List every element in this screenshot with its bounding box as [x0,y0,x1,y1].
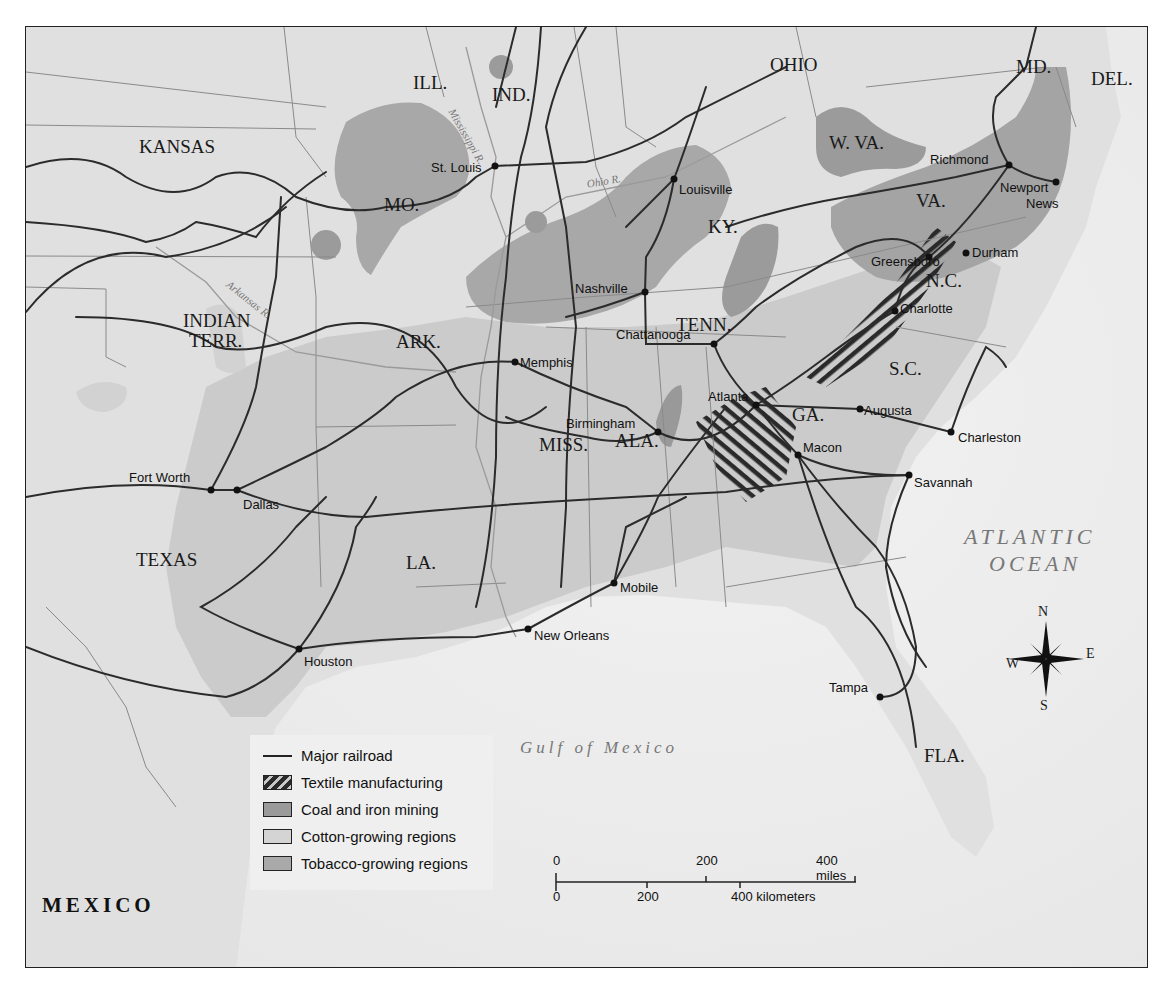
city-marker [1006,162,1013,169]
city-marker [492,163,499,170]
city-label: Chattanooga [616,328,690,341]
cotton-swatch [263,829,292,844]
city-label: Atlanta [708,390,748,403]
legend-item-textile: Textile manufacturing [263,774,443,791]
state-label: IND. [492,85,531,104]
state-label: VA. [916,191,946,210]
state-label: INDIAN [183,311,251,330]
scale-km-200: 200 [637,889,659,904]
city-marker [1053,179,1060,186]
state-label: TERR. [189,331,242,350]
city-label: Macon [803,441,842,454]
state-label: TEXAS [136,550,197,569]
scale-km-400: 400 kilometers [731,889,816,904]
city-marker [948,429,955,436]
city-marker [208,487,215,494]
city-marker [857,406,864,413]
state-label: ILL. [413,73,447,92]
state-label: N.C. [926,271,962,290]
city-marker [611,580,618,587]
city-label: New Orleans [534,629,609,642]
legend-label: Textile manufacturing [301,774,443,791]
water-body-label: ATLANTIC [964,526,1095,548]
city-label: Charlotte [900,302,953,315]
state-label: S.C. [889,359,922,378]
compass-e: E [1086,647,1095,661]
city-marker [753,402,760,409]
legend-item-tobacco: Tobacco-growing regions [263,855,468,872]
state-label: KANSAS [139,137,215,156]
compass-n: N [1038,605,1048,619]
coal-swatch [263,802,292,817]
city-label: Charleston [958,431,1021,444]
city-label: Durham [972,246,1018,259]
state-label: MO. [384,195,419,214]
legend-label: Coal and iron mining [301,801,439,818]
city-marker [877,694,884,701]
state-label: GA. [792,405,824,424]
state-label: FLA. [924,746,965,765]
city-label: St. Louis [431,161,482,174]
tobacco-swatch [263,856,292,871]
city-label: Augusta [864,404,912,417]
city-marker [906,472,913,479]
state-label: ALA. [615,431,659,450]
city-marker [711,341,718,348]
city-label: Nashville [575,282,628,295]
city-label: Mobile [620,581,658,594]
state-label: MISS. [539,435,588,454]
city-marker [296,646,303,653]
city-label: Louisville [679,183,732,196]
country-label: MEXICO [42,895,155,916]
state-label: LA. [406,553,436,572]
coal-region [311,230,341,260]
state-label: W. VA. [829,133,884,152]
city-label: News [1026,197,1059,210]
city-label: Newport [1000,181,1048,194]
city-marker [892,308,899,315]
legend-label: Tobacco-growing regions [301,855,468,872]
legend-label: Cotton-growing regions [301,828,456,845]
map-canvas [26,27,1148,968]
city-label: Tampa [829,681,868,694]
scale-bar: 0 200 400 miles 0 200 400 kilometers [546,853,856,913]
city-marker [512,359,519,366]
city-marker [234,487,241,494]
water-body-label: Gulf of Mexico [520,739,678,756]
state-label: KY. [708,217,738,236]
city-label: Fort Worth [129,471,190,484]
scale-miles-0: 0 [553,853,560,868]
legend-item-coal: Coal and iron mining [263,801,439,818]
compass-w: W [1006,657,1019,671]
city-label: Dallas [243,498,279,511]
state-label: ARK. [396,332,441,351]
state-label: DEL. [1091,69,1133,88]
compass-s: S [1040,699,1048,713]
city-label: Greensboro [871,255,940,268]
railroad-swatch [263,755,292,757]
legend-item-railroad: Major railroad [263,747,393,764]
city-marker [671,176,678,183]
map: ILL.IND.OHIOMD.DEL.KANSASW. VA.MO.KY.VA.… [25,26,1148,968]
city-marker [795,452,802,459]
legend-item-cotton: Cotton-growing regions [263,828,456,845]
legend-label: Major railroad [301,747,393,764]
city-marker [525,626,532,633]
water-body-label: OCEAN [989,553,1081,575]
coal-region [489,55,513,79]
city-label: Houston [304,655,352,668]
legend: Major railroad Textile manufacturing Coa… [250,735,493,890]
textile-swatch [263,775,292,790]
state-label: OHIO [770,55,818,74]
city-label: Memphis [520,356,573,369]
city-label: Savannah [914,476,973,489]
city-marker [963,250,970,257]
state-label: MD. [1016,57,1051,76]
city-marker [642,289,649,296]
scale-miles-200: 200 [696,853,718,868]
city-label: Richmond [930,153,989,166]
scale-km-0: 0 [553,889,560,904]
city-label: Birmingham [566,417,635,430]
